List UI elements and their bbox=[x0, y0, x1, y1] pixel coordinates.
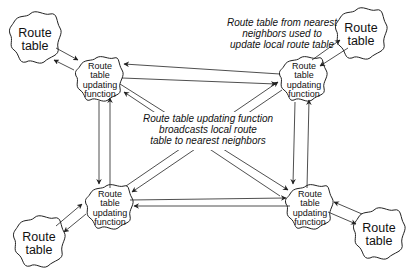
route-table-label-line: table bbox=[10, 40, 60, 53]
function-label-line: function bbox=[281, 90, 327, 99]
route-table-label-line: Route bbox=[10, 27, 60, 40]
function-bottom-right: Route table updating function bbox=[287, 190, 333, 228]
annotation-line: table to nearest neighbors bbox=[140, 135, 276, 146]
annotation-top-right: Route table from nearest neighbors used … bbox=[212, 17, 352, 51]
route-table-top-left: Route table bbox=[10, 27, 60, 52]
function-label-line: function bbox=[287, 218, 333, 227]
route-table-label-line: Route bbox=[354, 222, 404, 235]
annotation-line: Route table updating function bbox=[140, 113, 276, 124]
function-top-right: Route table updating function bbox=[281, 62, 327, 100]
function-top-left: Route table updating function bbox=[77, 62, 123, 100]
route-table-bottom-right: Route table bbox=[354, 222, 404, 247]
function-bottom-left: Route table updating function bbox=[87, 190, 133, 228]
annotation-line: update local route table bbox=[212, 39, 352, 50]
annotation-line: neighbors used to bbox=[212, 28, 352, 39]
function-label-line: function bbox=[77, 90, 123, 99]
route-table-label-line: table bbox=[14, 244, 64, 257]
function-label-line: function bbox=[87, 218, 133, 227]
route-table-label-line: Route bbox=[14, 231, 64, 244]
route-table-label-line: table bbox=[354, 235, 404, 248]
annotation-center: Route table updating function broadcasts… bbox=[140, 113, 276, 147]
annotation-line: Route table from nearest bbox=[212, 17, 352, 28]
route-table-bottom-left: Route table bbox=[14, 231, 64, 256]
annotation-line: broadcasts local route bbox=[140, 124, 276, 135]
